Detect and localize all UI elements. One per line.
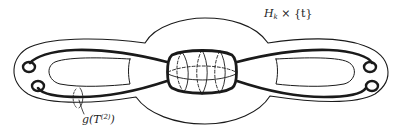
meridian-6 [220,51,225,93]
torus-meridian-dashed [73,89,77,108]
meridian-1 [177,52,184,92]
central-equator-back [168,66,236,72]
right-band-top [237,50,372,63]
label-hk-times-t: Hk × {t} [263,7,312,21]
meridian-2 [182,52,188,92]
central-body [168,51,237,94]
right-loop-top [364,62,376,72]
left-band-top [30,50,167,63]
meridian-4 [202,50,207,94]
meridian-3 [197,50,202,94]
right-loop-bottom [366,81,378,91]
right-inner-hole [276,58,354,86]
outer-boundary [14,18,388,124]
meridian-5 [215,51,220,93]
handlebody-diagram: Hk × {t} g(T(2)) [0,0,404,136]
left-inner-hole [49,58,130,86]
label-g-t2: g(T(2)) [82,113,115,126]
